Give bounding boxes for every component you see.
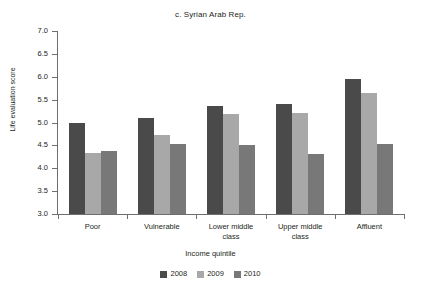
x-axis-category-label: Upper middleclass — [266, 222, 335, 242]
y-axis-tick-label: 7.0 — [14, 27, 48, 35]
x-axis-category-label: Vulnerable — [127, 222, 196, 232]
x-axis-category-label: Affluent — [335, 222, 404, 232]
x-axis-category-label-line: class — [196, 232, 265, 242]
y-axis-tick-label-text: 3.0 — [18, 210, 48, 218]
bar-group-bars — [58, 31, 127, 214]
bar — [361, 93, 377, 214]
chart-figure: c. Syrian Arab Rep. Life evaluation scor… — [0, 0, 421, 300]
bar-group-bars — [335, 31, 404, 214]
bar — [170, 144, 186, 214]
y-axis-tick-label-text: 6.5 — [18, 50, 48, 58]
legend-label: 2010 — [244, 270, 261, 278]
y-axis-tick-mark — [52, 77, 57, 78]
x-axis-line — [57, 214, 405, 215]
x-axis-category-label-line: Affluent — [335, 222, 404, 232]
bar-group — [58, 31, 127, 214]
x-axis-category-label-line: class — [266, 232, 335, 242]
x-axis-tick-mark — [127, 215, 128, 219]
bar — [138, 118, 154, 214]
x-axis-category-label-line: Vulnerable — [127, 222, 196, 232]
legend-item-2009[interactable]: 2009 — [197, 270, 224, 278]
bar — [308, 154, 324, 214]
bar — [276, 104, 292, 214]
y-axis-tick-label: 4.0 — [14, 164, 48, 172]
x-axis-tick-mark — [404, 215, 405, 219]
bar-group-bars — [196, 31, 265, 214]
bar — [101, 151, 117, 214]
x-axis-category-label-line: Poor — [58, 222, 127, 232]
x-axis-category-label-line: Upper middle — [266, 222, 335, 232]
bar — [85, 153, 101, 214]
y-axis-tick-mark — [52, 214, 57, 215]
bar-group-bars — [127, 31, 196, 214]
y-axis-tick-label-text: 7.0 — [18, 27, 48, 35]
y-axis-tick-label-text: 5.0 — [18, 119, 48, 127]
y-axis-tick-mark — [52, 31, 57, 32]
bar — [207, 106, 223, 214]
x-axis-category-label: Lower middleclass — [196, 222, 265, 242]
chart-legend: 200820092010 — [0, 270, 421, 278]
y-axis-tick-label-text: 4.5 — [18, 141, 48, 149]
x-axis-tick-mark — [335, 215, 336, 219]
legend-item-2008[interactable]: 2008 — [160, 270, 187, 278]
y-axis-tick-mark — [52, 145, 57, 146]
bar-group — [127, 31, 196, 214]
legend-label: 2009 — [207, 270, 224, 278]
y-axis-tick-label: 5.0 — [14, 119, 48, 127]
x-axis-tick-mark — [266, 215, 267, 219]
y-axis-tick-mark — [52, 123, 57, 124]
y-axis-tick-label-text: 3.5 — [18, 187, 48, 195]
y-axis-tick-mark — [52, 100, 57, 101]
legend-swatch-icon — [234, 271, 241, 278]
bar — [69, 123, 85, 215]
bar-group-bars — [266, 31, 335, 214]
y-axis-tick-mark — [52, 168, 57, 169]
bar-group — [266, 31, 335, 214]
y-axis-tick-label: 5.5 — [14, 96, 48, 104]
y-axis-tick-label-text: 5.5 — [18, 96, 48, 104]
y-axis-tick-label: 6.5 — [14, 50, 48, 58]
y-axis-tick-mark — [52, 54, 57, 55]
legend-item-2010[interactable]: 2010 — [234, 270, 261, 278]
x-axis-tick-mark — [58, 215, 59, 219]
y-axis-tick-mark — [52, 191, 57, 192]
y-axis-tick-label: 4.5 — [14, 141, 48, 149]
bar-group — [335, 31, 404, 214]
bar — [377, 144, 393, 214]
x-axis-tick-mark — [196, 215, 197, 219]
y-axis-tick-label: 6.0 — [14, 73, 48, 81]
x-axis-title: Income quintile — [0, 249, 421, 258]
legend-swatch-icon — [160, 271, 167, 278]
bar — [239, 145, 255, 214]
y-axis-tick-label-text: 4.0 — [18, 164, 48, 172]
bar — [154, 135, 170, 214]
bar — [223, 114, 239, 214]
bar-group — [196, 31, 265, 214]
x-axis-category-label-line: Lower middle — [196, 222, 265, 232]
y-axis-tick-label: 3.5 — [14, 187, 48, 195]
bar — [292, 113, 308, 214]
chart-title: c. Syrian Arab Rep. — [0, 10, 421, 19]
bar — [345, 79, 361, 214]
y-axis-tick-label: 3.0 — [14, 210, 48, 218]
x-axis-category-label: Poor — [58, 222, 127, 232]
y-axis-tick-label-text: 6.0 — [18, 73, 48, 81]
legend-swatch-icon — [197, 271, 204, 278]
plot-area — [58, 31, 404, 214]
legend-label: 2008 — [170, 270, 187, 278]
